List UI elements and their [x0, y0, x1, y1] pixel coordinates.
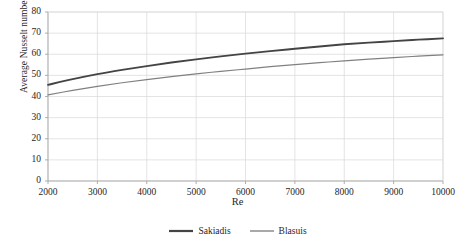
chart-container: Average Nusselt number 01020304050607080…	[0, 0, 475, 249]
legend-label: Blasuis	[279, 226, 307, 236]
chart-legend: SakiadisBlasuis	[0, 226, 475, 236]
x-axis-title: Re	[0, 196, 475, 207]
legend-line-icon	[168, 227, 194, 235]
legend-line-icon	[249, 227, 275, 235]
legend-item-sakiadis[interactable]: Sakiadis	[168, 226, 230, 236]
x-axis-tick-labels: 2000300040005000600070008000900010000	[0, 0, 475, 249]
legend-label: Sakiadis	[198, 226, 230, 236]
legend-item-blasuis[interactable]: Blasuis	[249, 226, 307, 236]
